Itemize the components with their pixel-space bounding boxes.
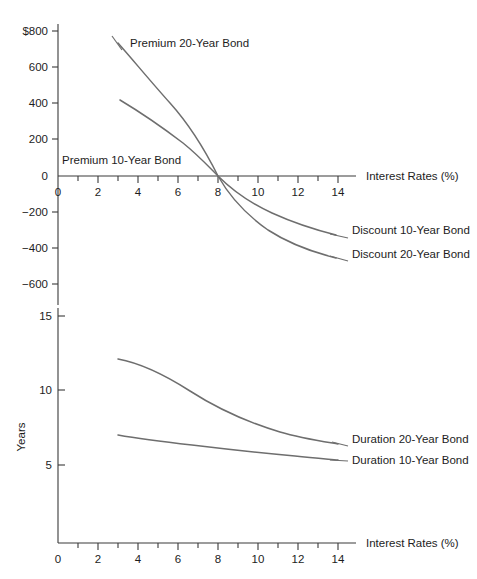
upper-xtick-label-14: 14 [332, 186, 345, 198]
leader-discount-10 [330, 234, 348, 238]
upper-xtick-label-2: 2 [95, 186, 101, 198]
lower-x-ticks [78, 543, 338, 550]
figure-svg: $800 600 400 200 0 −200 −400 −600 0 2 4 [0, 0, 477, 579]
label-duration-10-year-bond: Duration 10-Year Bond [352, 454, 469, 466]
upper-x-ticks [78, 176, 338, 183]
lower-xtick-label-14: 14 [332, 553, 345, 565]
upper-ytick-label-400: 400 [29, 97, 48, 109]
label-duration-20-year-bond: Duration 20-Year Bond [352, 433, 469, 445]
upper-ytick-label-200: 200 [29, 133, 48, 145]
upper-xtick-label-10: 10 [252, 186, 265, 198]
upper-ytick-label-neg200: −200 [22, 206, 48, 218]
upper-x-axis-title: Interest Rates (%) [366, 170, 459, 182]
label-discount-20-year-bond: Discount 20-Year Bond [352, 248, 470, 260]
upper-ytick-label-0: 0 [42, 170, 48, 182]
leader-premium-20 [112, 36, 122, 50]
label-premium-20-year-bond: Premium 20-Year Bond [130, 37, 249, 49]
bond-price-duration-figure: $800 600 400 200 0 −200 −400 −600 0 2 4 [0, 0, 477, 579]
upper-ytick-label-neg600: −600 [22, 278, 48, 290]
curve-duration-20-year-bond [118, 359, 338, 444]
lower-ytick-label-10: 10 [39, 384, 52, 396]
lower-ytick-label-15: 15 [39, 310, 52, 322]
curve-10-year-bond [120, 100, 336, 235]
lower-y-ticks [58, 316, 65, 465]
upper-ytick-label-neg400: −400 [22, 242, 48, 254]
lower-xtick-label-8: 8 [215, 553, 221, 565]
upper-xtick-label-12: 12 [292, 186, 305, 198]
upper-ytick-label-800: $800 [22, 25, 48, 37]
lower-xtick-label-2: 2 [95, 553, 101, 565]
upper-xtick-label-4: 4 [135, 186, 142, 198]
lower-xtick-label-4: 4 [135, 553, 142, 565]
lower-y-axis-title: Years [15, 422, 27, 451]
lower-x-axis-title: Interest Rates (%) [366, 537, 459, 549]
upper-chart: $800 600 400 200 0 −200 −400 −600 0 2 4 [22, 24, 470, 305]
lower-xtick-label-0: 0 [55, 553, 61, 565]
label-premium-10-year-bond: Premium 10-Year Bond [62, 154, 181, 166]
leader-duration-10 [330, 460, 348, 461]
lower-chart: 15 10 5 Years 0 2 4 6 8 10 12 [15, 308, 469, 565]
lower-xtick-label-10: 10 [252, 553, 265, 565]
lower-ytick-label-5: 5 [46, 459, 52, 471]
upper-xtick-label-0: 0 [55, 186, 61, 198]
upper-xtick-label-6: 6 [175, 186, 181, 198]
label-discount-10-year-bond: Discount 10-Year Bond [352, 224, 470, 236]
leader-discount-20 [330, 256, 348, 261]
upper-xtick-label-8: 8 [215, 186, 221, 198]
upper-y-ticks [52, 31, 58, 284]
lower-xtick-label-12: 12 [292, 553, 305, 565]
lower-xtick-label-6: 6 [175, 553, 181, 565]
upper-ytick-label-600: 600 [29, 61, 48, 73]
